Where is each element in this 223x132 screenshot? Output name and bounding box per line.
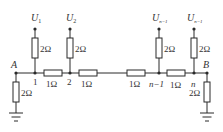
right-end-value: 2Ω (189, 88, 201, 98)
series-resistor-4 (167, 70, 185, 76)
shunt-value-1: 2Ω (40, 44, 52, 54)
left-end-value: 2Ω (21, 88, 33, 98)
node-label-n-1: n−1 (149, 79, 164, 89)
left-end-resistor (13, 82, 19, 102)
series-resistor-1 (44, 70, 62, 76)
source-terminal-dot (192, 27, 195, 30)
circuit-diagram: U1 U2 Un−1 Un−1 2Ω 2Ω 2Ω 2Ω 1Ω 1Ω 1Ω 1Ω … (0, 0, 223, 132)
shunt-resistor-1 (32, 38, 38, 58)
source-label-4: Un−1 (187, 12, 203, 24)
node-dot-B (205, 71, 208, 74)
node-dot-2 (68, 71, 71, 74)
ground-icon (9, 113, 23, 121)
node-label-n: n (191, 79, 196, 89)
shunt-resistor-3 (156, 38, 162, 58)
shunt-resistor-4 (191, 38, 197, 58)
source-label-3: Un−1 (152, 12, 168, 24)
shunt-resistor-2 (67, 38, 73, 58)
ground-icon (200, 113, 214, 121)
source-label-1: U1 (31, 12, 41, 24)
node-label-1: 1 (33, 77, 38, 87)
node-dot-n (192, 71, 195, 74)
terminal-label-A: A (10, 59, 18, 70)
series-resistor-3 (127, 70, 145, 76)
node-label-2: 2 (67, 77, 72, 87)
series-value-2: 1Ω (81, 79, 93, 89)
shunt-value-2: 2Ω (75, 44, 87, 54)
series-value-1: 1Ω (46, 79, 58, 89)
right-end-resistor (204, 82, 210, 102)
source-terminal-dot (33, 27, 36, 30)
shunt-value-4: 2Ω (199, 44, 211, 54)
circuit-svg: U1 U2 Un−1 Un−1 2Ω 2Ω 2Ω 2Ω 1Ω 1Ω 1Ω 1Ω … (0, 0, 223, 132)
node-dot-n-1 (157, 71, 160, 74)
node-dot-A (14, 71, 17, 74)
node-dot-1 (33, 71, 36, 74)
shunt-value-3: 2Ω (164, 44, 176, 54)
source-label-2: U2 (66, 12, 76, 24)
terminal-label-B: B (203, 59, 209, 70)
series-value-3: 1Ω (129, 79, 141, 89)
series-value-4: 1Ω (170, 80, 182, 90)
series-resistor-2 (79, 70, 97, 76)
source-terminal-dot (157, 27, 160, 30)
source-terminal-dot (68, 27, 71, 30)
